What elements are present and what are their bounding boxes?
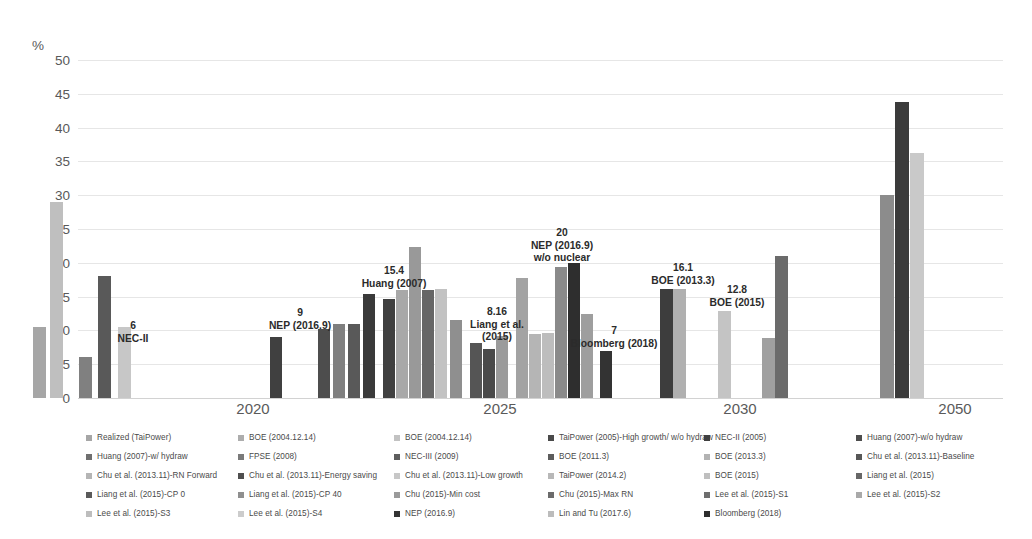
annotation-source: NEC-II [118, 333, 149, 346]
bar [555, 267, 567, 398]
legend-swatch-icon [856, 473, 862, 479]
y-axis-unit-label: % [32, 38, 44, 53]
legend-swatch-icon [238, 473, 244, 479]
bar-value-annotation: 9NEP (2016.9) [269, 307, 331, 332]
annotation-source: NEP (2016.9) [269, 320, 331, 333]
legend-item[interactable]: BOE (2004.12.14) [394, 428, 523, 447]
legend-item[interactable]: Chu et al. (2013.11)-Low growth [394, 466, 523, 485]
legend-item[interactable]: Lee et al. (2015)-S1 [704, 485, 788, 504]
annotation-value: 7 [571, 325, 658, 338]
x-axis-label-2030: 2030 [723, 400, 756, 417]
legend-label: Liang et al. (2015)-CP 0 [97, 490, 185, 499]
legend-item[interactable]: BOE (2013.3) [704, 447, 788, 466]
legend-item[interactable]: Liang et al. (2015)-CP 40 [238, 485, 377, 504]
legend-label: Chu et al. (2013.11)-Low growth [405, 471, 523, 480]
legend-column: BOE (2004.12.14)NEC-III (2009)Chu et al.… [394, 428, 523, 523]
legend-swatch-icon [704, 473, 710, 479]
legend-item[interactable]: NEP (2016.9) [394, 504, 523, 523]
legend-item[interactable]: Liang et al. (2015) [856, 466, 974, 485]
legend-item[interactable]: Lee et al. (2015)-S4 [238, 504, 377, 523]
gridline [78, 161, 1003, 162]
legend-label: NEP (2016.9) [405, 509, 455, 518]
annotation-source: BOE (2013.3) [651, 275, 715, 288]
bar [762, 338, 775, 398]
gridline [78, 94, 1003, 95]
annotation-source-line2: w/o nuclear [531, 252, 593, 265]
legend-item[interactable]: Chu et al. (2013.11)-Energy saving [238, 466, 377, 485]
legend-item[interactable]: Chu (2015)-Min cost [394, 485, 523, 504]
annotation-value: 12.8 [710, 284, 765, 297]
bar [396, 290, 408, 398]
bar [673, 289, 686, 398]
bar [333, 324, 345, 398]
legend-item[interactable]: TaiPower (2014.2) [548, 466, 713, 485]
legend-item[interactable]: Chu et al. (2013.11)-RN Forward [86, 466, 217, 485]
legend-column: Realized (TaiPower)Huang (2007)-w/ hydra… [86, 428, 217, 523]
legend-swatch-icon [86, 454, 92, 460]
bar [775, 256, 788, 398]
legend-swatch-icon [394, 492, 400, 498]
legend-item[interactable]: Realized (TaiPower) [86, 428, 217, 447]
legend-label: Lee et al. (2015)-S1 [715, 490, 788, 499]
legend-label: BOE (2015) [715, 471, 759, 480]
legend-item[interactable]: TaiPower (2005)-High growth/ w/o hydraw [548, 428, 713, 447]
legend-swatch-icon [548, 473, 554, 479]
bar-chart: % 05101520253035404550 2020202520302050 … [0, 0, 1032, 539]
legend-item[interactable]: Huang (2007)-w/o hydraw [856, 428, 974, 447]
legend-label: Realized (TaiPower) [97, 433, 171, 442]
legend-label: BOE (2013.3) [715, 452, 766, 461]
legend-item[interactable]: Bloomberg (2018) [704, 504, 788, 523]
bar-value-annotation: 8.16Liang et al.(2015) [470, 306, 524, 344]
legend-label: Liang et al. (2015)-CP 40 [249, 490, 342, 499]
x-axis-label-2025: 2025 [483, 400, 516, 417]
annotation-source: Bloomberg (2018) [571, 338, 658, 351]
y-axis-tick-label: 45 [32, 86, 70, 101]
legend-swatch-icon [238, 511, 244, 517]
legend-item[interactable]: Lee et al. (2015)-S2 [856, 485, 974, 504]
legend-item[interactable]: BOE (2011.3) [548, 447, 713, 466]
gridline [78, 330, 1003, 331]
legend-column: NEC-II (2005)BOE (2013.3)BOE (2015)Lee e… [704, 428, 788, 523]
bar [600, 351, 612, 398]
legend-swatch-icon [704, 435, 710, 441]
legend-swatch-icon [86, 492, 92, 498]
annotation-source: Huang (2007) [362, 278, 427, 291]
legend-label: FPSE (2008) [249, 452, 297, 461]
legend-item[interactable]: FPSE (2008) [238, 447, 377, 466]
legend-swatch-icon [704, 454, 710, 460]
legend-column: BOE (2004.12.14)FPSE (2008)Chu et al. (2… [238, 428, 377, 523]
legend-label: Lee et al. (2015)-S2 [867, 490, 940, 499]
legend-item[interactable]: Lee et al. (2015)-S3 [86, 504, 217, 523]
legend-swatch-icon [394, 511, 400, 517]
bar [895, 102, 909, 398]
bar [435, 289, 447, 399]
legend-label: Lin and Tu (2017.6) [559, 509, 631, 518]
bar-value-annotation: 20NEP (2016.9)w/o nuclear [531, 227, 593, 265]
legend-item[interactable]: Lin and Tu (2017.6) [548, 504, 713, 523]
legend-swatch-icon [86, 473, 92, 479]
bar-value-annotation: 16.1BOE (2013.3) [651, 262, 715, 287]
legend-swatch-icon [86, 511, 92, 517]
legend-item[interactable]: Huang (2007)-w/ hydraw [86, 447, 217, 466]
legend-label: BOE (2011.3) [559, 452, 609, 461]
bar [270, 337, 282, 398]
legend-item[interactable]: Chu et al. (2013.11)-Baseline [856, 447, 974, 466]
legend-swatch-icon [238, 435, 244, 441]
legend-item[interactable]: NEC-II (2005) [704, 428, 788, 447]
legend-item[interactable]: Chu (2015)-Max RN [548, 485, 713, 504]
legend-label: Chu et al. (2013.11)-Energy saving [249, 471, 377, 480]
bar [348, 324, 360, 398]
legend-label: Huang (2007)-w/o hydraw [867, 433, 962, 442]
legend-column: TaiPower (2005)-High growth/ w/o hydrawB… [548, 428, 713, 523]
legend-item[interactable]: BOE (2015) [704, 466, 788, 485]
annotation-value: 8.16 [470, 306, 524, 319]
legend-item[interactable]: BOE (2004.12.14) [238, 428, 377, 447]
bar-value-annotation: 15.4Huang (2007) [362, 265, 427, 290]
legend-label: NEC-III (2009) [405, 452, 458, 461]
legend-item[interactable]: NEC-III (2009) [394, 447, 523, 466]
legend-swatch-icon [548, 492, 554, 498]
y-axis-tick-label: 40 [32, 120, 70, 135]
bar [50, 202, 63, 398]
legend-label: TaiPower (2014.2) [559, 471, 626, 480]
legend-item[interactable]: Liang et al. (2015)-CP 0 [86, 485, 217, 504]
